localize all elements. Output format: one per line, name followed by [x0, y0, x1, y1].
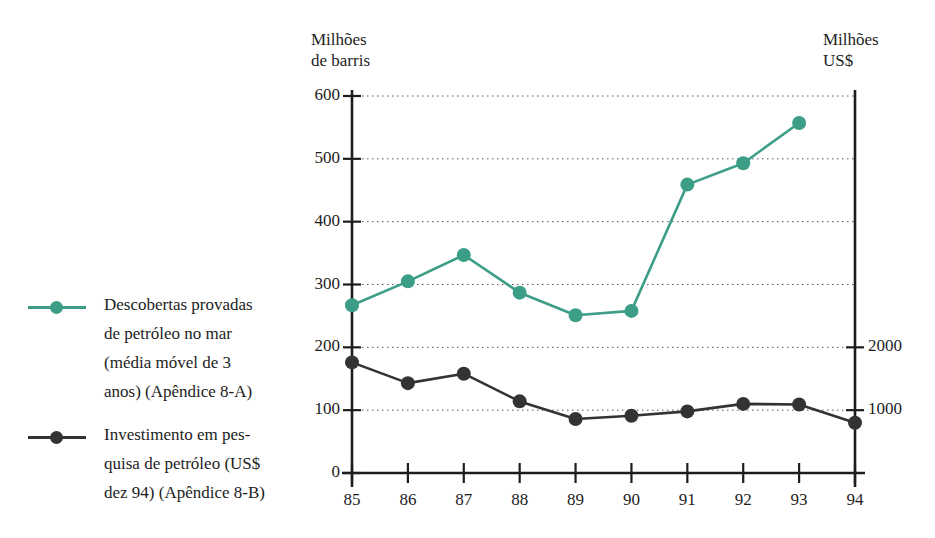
x-axis-tick-label: 85 — [332, 490, 372, 510]
y-axis-tick-label: 200 — [288, 336, 340, 356]
y-axis-tick-label: 100 — [288, 399, 340, 419]
axis-ticks — [343, 96, 864, 483]
series-0 — [345, 116, 806, 322]
data-point — [569, 308, 583, 322]
x-axis-tick-label: 91 — [667, 490, 707, 510]
data-point — [457, 248, 471, 262]
data-point — [680, 404, 694, 418]
y-axis-tick-label: 0 — [288, 462, 340, 482]
data-point — [457, 367, 471, 381]
x-axis-tick-label: 92 — [723, 490, 763, 510]
plot-svg — [0, 0, 935, 538]
data-point — [513, 394, 527, 408]
data-point — [680, 178, 694, 192]
y-axis-tick-label: 400 — [288, 211, 340, 231]
data-point — [736, 397, 750, 411]
y2-axis-tick-label: 2000 — [868, 336, 928, 356]
data-point — [848, 416, 862, 430]
data-point — [345, 355, 359, 369]
data-point — [401, 274, 415, 288]
x-axis-tick-label: 88 — [500, 490, 540, 510]
data-point — [792, 398, 806, 412]
data-point — [624, 409, 638, 423]
y-axis-tick-label: 300 — [288, 274, 340, 294]
data-series-layer — [345, 116, 862, 430]
data-point — [513, 286, 527, 300]
data-point — [569, 412, 583, 426]
x-axis-tick-label: 87 — [444, 490, 484, 510]
x-axis-tick-label: 89 — [556, 490, 596, 510]
x-axis-tick-label: 93 — [779, 490, 819, 510]
data-point — [401, 376, 415, 390]
data-point — [624, 304, 638, 318]
y-axis-tick-label: 500 — [288, 148, 340, 168]
x-axis-tick-label: 86 — [388, 490, 428, 510]
x-axis-tick-label: 94 — [835, 490, 875, 510]
y-axis-tick-label: 600 — [288, 85, 340, 105]
data-point — [345, 298, 359, 312]
data-point — [792, 116, 806, 130]
series-1 — [345, 355, 862, 429]
x-axis-tick-label: 90 — [611, 490, 651, 510]
plot-area: 0100200300400500600100020008586878889909… — [0, 0, 935, 538]
chart-figure: Milhões de barris Milhões US$ Descoberta… — [0, 0, 935, 538]
axis-lines — [342, 90, 865, 487]
data-point — [736, 156, 750, 170]
y2-axis-tick-label: 1000 — [868, 399, 928, 419]
